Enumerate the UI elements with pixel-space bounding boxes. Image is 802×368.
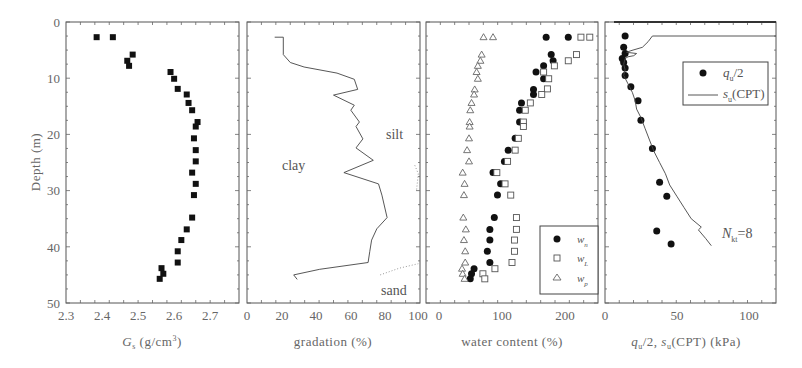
data-point-circle bbox=[543, 34, 550, 41]
data-point-square bbox=[110, 34, 116, 40]
y-tick: 10 bbox=[47, 71, 60, 86]
data-point-circle bbox=[530, 91, 537, 98]
x-tick: 60 bbox=[345, 308, 358, 323]
x-tick: 40 bbox=[310, 308, 323, 323]
data-point-open-square bbox=[541, 69, 547, 75]
data-point-square bbox=[157, 276, 163, 282]
data-point-square bbox=[171, 76, 177, 82]
data-point-open-square bbox=[508, 192, 514, 198]
axis-ticks bbox=[66, 22, 776, 303]
data-point-circle bbox=[491, 214, 498, 221]
data-point-triangle bbox=[468, 99, 475, 105]
data-point-triangle bbox=[462, 248, 469, 254]
data-point-triangle bbox=[467, 107, 474, 113]
data-point-open-square bbox=[482, 276, 488, 282]
data-point-open-square bbox=[546, 76, 552, 82]
data-point-triangle bbox=[466, 135, 473, 141]
data-point-triangle bbox=[474, 75, 481, 81]
panel-strength-legend: qu/2 su(CPT) bbox=[683, 62, 768, 105]
data-point-triangle bbox=[478, 51, 485, 57]
data-point-open-square bbox=[587, 34, 593, 40]
annotation-silt: silt bbox=[386, 127, 403, 142]
data-point-square bbox=[159, 265, 165, 271]
data-point-open-square bbox=[505, 158, 511, 164]
data-point-circle bbox=[486, 237, 493, 244]
data-point-square bbox=[193, 158, 199, 164]
data-point-circle bbox=[663, 193, 670, 200]
data-point-open-square bbox=[574, 52, 580, 58]
data-point-triangle bbox=[461, 180, 468, 186]
data-point-open-square bbox=[522, 107, 528, 113]
data-point-square bbox=[175, 86, 181, 92]
data-point-open-square bbox=[539, 91, 545, 97]
data-point-circle bbox=[540, 62, 547, 69]
panel-gradation-frame bbox=[247, 22, 420, 303]
data-point-open-square bbox=[578, 34, 584, 40]
data-point-open-square bbox=[513, 226, 519, 232]
panel-gradation-xlabel: gradation (%) bbox=[294, 334, 372, 349]
data-point-circle bbox=[505, 147, 512, 154]
x-tick: 200 bbox=[555, 308, 575, 323]
x-tick: 0 bbox=[602, 308, 609, 323]
series-line bbox=[380, 264, 418, 275]
data-point-circle bbox=[668, 240, 675, 247]
data-point-triangle bbox=[466, 158, 473, 164]
panel-gs-x-ticks: 2.3 2.4 2.5 2.6 2.7 bbox=[58, 308, 219, 323]
data-point-square bbox=[175, 260, 181, 266]
data-point-square bbox=[175, 248, 181, 254]
data-point-triangle bbox=[459, 265, 466, 271]
y-tick: 20 bbox=[47, 127, 60, 142]
chart-canvas: Depth (m) 0 10 20 30 40 50 2.3 2.4 2.5 2… bbox=[0, 0, 802, 368]
data-point-square bbox=[189, 107, 195, 113]
data-point-triangle bbox=[459, 169, 466, 175]
data-point-open-square bbox=[551, 63, 557, 69]
data-point-circle bbox=[622, 33, 629, 40]
figure: Depth (m) 0 10 20 30 40 50 2.3 2.4 2.5 2… bbox=[0, 0, 802, 368]
data-point-open-square bbox=[492, 266, 498, 272]
x-tick: 2.3 bbox=[58, 308, 74, 323]
panel-strength-x-ticks: 0 50 100 bbox=[602, 308, 759, 323]
data-point-triangle bbox=[462, 259, 469, 265]
data-point-circle bbox=[486, 259, 493, 266]
data-point-open-square bbox=[527, 100, 533, 106]
data-point-square bbox=[94, 34, 100, 40]
x-tick: 20 bbox=[276, 308, 289, 323]
plot-data bbox=[94, 22, 776, 282]
x-tick: 80 bbox=[379, 308, 392, 323]
panel-water-xlabel: water content (%) bbox=[461, 334, 563, 349]
data-point-circle bbox=[656, 179, 663, 186]
data-point-circle bbox=[533, 69, 540, 76]
data-point-open-square bbox=[544, 86, 550, 92]
data-point-square bbox=[184, 226, 190, 232]
data-point-open-square bbox=[520, 124, 526, 130]
data-point-triangle bbox=[480, 34, 487, 40]
annotation-sand: sand bbox=[381, 283, 407, 298]
legend-marker-filled-circle bbox=[554, 236, 561, 243]
x-tick: 2.6 bbox=[166, 308, 183, 323]
x-tick: 2.5 bbox=[130, 308, 146, 323]
data-point-circle bbox=[518, 99, 525, 106]
data-point-square bbox=[178, 237, 184, 243]
data-point-square bbox=[193, 181, 199, 187]
y-tick-labels: 0 10 20 30 40 50 bbox=[47, 15, 60, 311]
data-point-triangle bbox=[473, 69, 480, 75]
data-point-triangle bbox=[460, 214, 467, 220]
data-point-square bbox=[189, 170, 195, 176]
y-tick: 0 bbox=[54, 15, 61, 30]
y-tick: 40 bbox=[47, 240, 60, 255]
data-point-square bbox=[168, 69, 174, 75]
data-point-circle bbox=[494, 192, 501, 199]
data-point-triangle bbox=[464, 147, 471, 153]
x-tick: 100 bbox=[492, 308, 512, 323]
data-point-open-square bbox=[512, 237, 518, 243]
data-point-square bbox=[193, 124, 199, 130]
x-tick: 2.4 bbox=[94, 308, 111, 323]
data-point-triangle bbox=[490, 34, 497, 40]
x-tick: 100 bbox=[739, 308, 759, 323]
data-point-open-square bbox=[494, 170, 500, 176]
data-point-square bbox=[130, 52, 136, 58]
data-point-circle bbox=[548, 51, 555, 58]
panel-gs-frame bbox=[66, 22, 239, 303]
data-point-open-square bbox=[565, 58, 571, 64]
panel-gradation-x-ticks: 0 20 40 60 80 100 bbox=[244, 308, 428, 323]
